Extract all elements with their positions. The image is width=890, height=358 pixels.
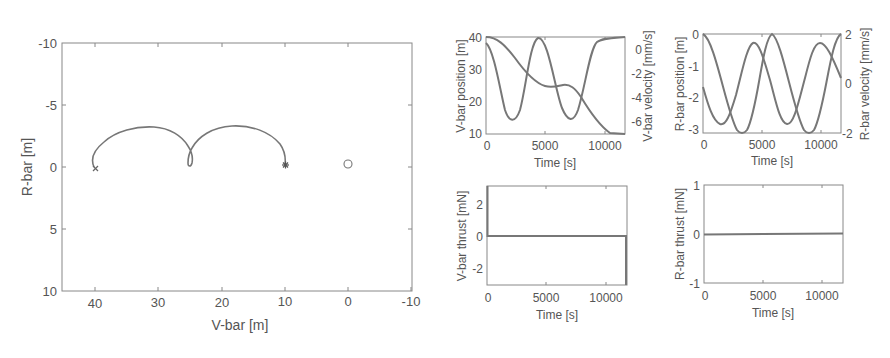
rpos-tick-neg3: -3 <box>688 123 699 137</box>
vpos-tick-20: 20 <box>469 95 483 109</box>
vpos-tick-40: 40 <box>469 31 483 45</box>
vbar-thrust-time-tick-labels: 0 5000 10000 <box>485 291 623 305</box>
vth-tick-0: 0 <box>476 230 483 244</box>
rbar-states-x-label: Time [s] <box>751 154 793 168</box>
y-tick-0: 0 <box>50 160 57 175</box>
y-tick-neg10: -10 <box>38 36 57 51</box>
trajectory-x-label: V-bar [m] <box>212 317 269 333</box>
rbar-thrust-tick-labels: 1 0 -1 <box>689 179 700 291</box>
vbar-thrust-tick-labels: 2 0 -2 <box>472 198 483 276</box>
x-tick-0: 0 <box>344 294 351 309</box>
rbar-thrust-x-label: Time [s] <box>752 306 794 320</box>
trajectory-y-label: R-bar [m] <box>19 138 35 196</box>
vbar-thrust-x-label: Time [s] <box>536 308 578 322</box>
rvel-tick-0: 0 <box>845 77 852 91</box>
time-tick-0: 0 <box>701 138 708 152</box>
figure: 40 30 20 10 0 -10 -10 -5 0 5 10 V-bar [m… <box>0 0 890 358</box>
vbar-thrust-y-label: V-bar thrust [mN] <box>455 191 469 282</box>
trajectory-x-tick-labels: 40 30 20 10 0 -10 <box>88 294 421 311</box>
rbar-thrust-y-label: R-bar thrust [mN] <box>673 188 687 280</box>
rbar-states-plot: 0 -1 -2 -3 2 0 -2 0 5000 10000 Time [s] … <box>673 28 872 168</box>
start-marker-x-icon <box>93 166 98 171</box>
vth-tick-2: 2 <box>476 198 483 212</box>
vbar-states-time-tick-labels: 0 5000 10000 <box>484 139 622 153</box>
trajectory-y-tick-labels: -10 -5 0 5 10 <box>38 36 57 299</box>
rvel-tick-neg2: -2 <box>842 127 853 141</box>
rpos-tick-neg2: -2 <box>688 91 699 105</box>
vbar-states-x-label: Time [s] <box>534 156 576 170</box>
time-tick-5000: 5000 <box>533 291 560 305</box>
trajectory-plot: 40 30 20 10 0 -10 -10 -5 0 5 10 V-bar [m… <box>19 36 420 333</box>
rbar-thrust-time-tick-labels: 0 5000 10000 <box>702 289 839 303</box>
time-tick-0: 0 <box>484 139 491 153</box>
rbar-thrust-plot: 1 0 -1 0 5000 10000 Time [s] R-bar thrus… <box>673 179 843 320</box>
rbar-thrust-curve <box>704 234 843 235</box>
rbar-position-y-label: R-bar position [m] <box>673 37 687 132</box>
x-tick-30: 30 <box>151 295 165 310</box>
rth-tick-0: 0 <box>693 228 700 242</box>
vbar-thrust-curve <box>488 186 627 285</box>
x-tick-40: 40 <box>88 296 102 311</box>
vbar-velocity-y-label: V-bar velocity [mm/s] <box>641 30 655 141</box>
rvel-tick-2: 2 <box>845 28 852 42</box>
trajectory-axes-box <box>62 43 412 291</box>
vbar-states-plot: 40 30 20 10 0 -2 -4 -6 0 5000 10000 Time… <box>454 30 655 170</box>
time-tick-10000: 10000 <box>588 139 622 153</box>
x-tick-20: 20 <box>215 295 229 310</box>
vbar-thrust-plot: 2 0 -2 0 5000 10000 Time [s] V-bar thrus… <box>455 186 627 322</box>
rbar-states-time-tick-labels: 0 5000 10000 <box>701 138 838 152</box>
vbar-position-y-label: V-bar position [m] <box>454 39 468 132</box>
trajectory-x-tick-marks <box>62 43 412 291</box>
time-tick-10000: 10000 <box>589 291 623 305</box>
rbar-states-axes-box <box>703 34 841 133</box>
vbar-position-tick-labels: 40 30 20 10 <box>469 31 483 141</box>
time-tick-5000: 5000 <box>532 139 559 153</box>
time-tick-5000: 5000 <box>750 289 777 303</box>
rbar-velocity-y-label: R-bar velocity [mm/s] <box>858 28 872 141</box>
target-marker-circle-icon <box>344 160 352 168</box>
x-tick-neg10: -10 <box>402 294 421 309</box>
y-tick-10: 10 <box>43 284 57 299</box>
y-tick-neg5: -5 <box>45 98 57 113</box>
vpos-tick-30: 30 <box>469 63 483 77</box>
rbar-velocity-tick-labels: 2 0 -2 <box>842 28 853 141</box>
time-tick-5000: 5000 <box>749 138 776 152</box>
x-tick-10: 10 <box>278 294 292 309</box>
vth-tick-neg2: -2 <box>472 262 483 276</box>
rbar-position-tick-labels: 0 -1 -2 -3 <box>688 28 699 137</box>
rth-tick-neg1: -1 <box>689 277 700 291</box>
time-tick-10000: 10000 <box>805 289 839 303</box>
rbar-position-curve <box>703 34 841 133</box>
time-tick-0: 0 <box>702 289 709 303</box>
rth-tick-1: 1 <box>693 179 700 193</box>
rpos-tick-neg1: -1 <box>688 60 699 74</box>
end-marker-star-icon <box>282 162 289 169</box>
time-tick-10000: 10000 <box>804 138 838 152</box>
y-tick-5: 5 <box>50 222 57 237</box>
time-tick-0: 0 <box>485 291 492 305</box>
rpos-tick-0: 0 <box>692 28 699 42</box>
trajectory-curve <box>92 126 285 167</box>
vpos-tick-10: 10 <box>469 127 483 141</box>
